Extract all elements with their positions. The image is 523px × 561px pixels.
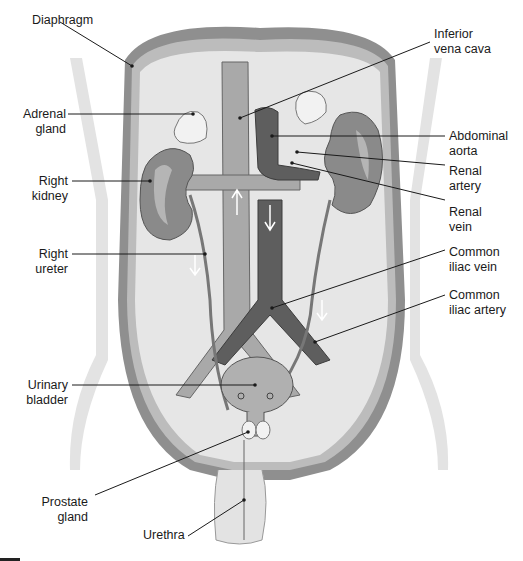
label-common-iliac-artery: Common iliac artery <box>449 288 506 318</box>
label-common-iliac-vein: Common iliac vein <box>449 245 500 275</box>
label-urinary-bladder: Urinary bladder <box>14 378 68 408</box>
label-inferior-vena-cava: Inferior vena cava <box>434 27 491 57</box>
urinary-system-illustration <box>0 0 523 561</box>
label-urethra: Urethra <box>143 528 185 543</box>
label-renal-artery: Renal artery <box>449 164 482 194</box>
right-kidney-shape <box>140 149 194 240</box>
label-prostate-gland: Prostate gland <box>30 495 88 525</box>
label-abdominal-aorta: Abdominal aorta <box>449 129 508 159</box>
anatomy-diagram: Diaphragm Adrenal gland Right kidney Rig… <box>0 0 523 561</box>
label-diaphragm: Diaphragm <box>32 13 93 28</box>
label-adrenal-gland: Adrenal gland <box>18 107 66 137</box>
label-right-ureter: Right ureter <box>18 247 68 277</box>
label-right-kidney: Right kidney <box>18 174 68 204</box>
label-renal-vein: Renal vein <box>449 205 482 235</box>
